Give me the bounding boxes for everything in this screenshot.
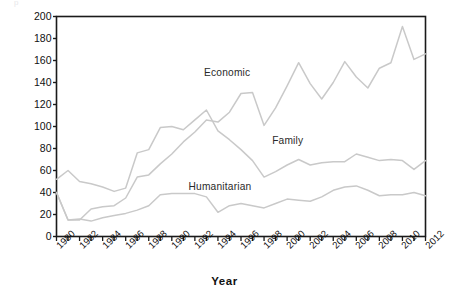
y-tick-20: 20 (18, 208, 52, 220)
y-tick-180: 180 (18, 32, 52, 44)
y-tick-0: 0 (18, 230, 52, 242)
faint-title-fragment: p (14, 0, 19, 7)
y-tick-60: 60 (18, 164, 52, 176)
y-tick-100: 100 (18, 120, 52, 132)
series-label-humanitarian: Humanitarian (187, 181, 252, 192)
series-label-family: Family (271, 135, 304, 146)
x-axis-title: Year (0, 275, 449, 287)
plot-area (0, 0, 449, 300)
chart-figure: p Number of immigrants in thousands Year… (0, 0, 449, 300)
y-tick-140: 140 (18, 76, 52, 88)
series-label-economic: Economic (203, 67, 251, 78)
y-tick-160: 160 (18, 54, 52, 66)
y-tick-120: 120 (18, 98, 52, 110)
y-tick-40: 40 (18, 186, 52, 198)
series-line-family (57, 110, 426, 191)
y-tick-200: 200 (18, 10, 52, 22)
y-tick-80: 80 (18, 142, 52, 154)
